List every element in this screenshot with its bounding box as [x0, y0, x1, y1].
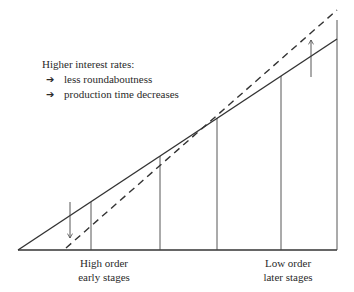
high-order-label: High order early stages: [68, 257, 140, 284]
annotation-heading: Higher interest rates:: [42, 57, 179, 72]
annotation-bullet: ➔less roundaboutness: [42, 72, 179, 88]
new-structure-dashed-line: [66, 10, 337, 248]
annotation-bullet: ➔production time decreases: [42, 87, 179, 103]
low-order-label: Low order later stages: [252, 257, 324, 284]
production-structure-diagram: [0, 0, 354, 292]
interest-rate-annotation: Higher interest rates: ➔less roundaboutn…: [42, 57, 179, 103]
arrow-right-icon: ➔: [42, 88, 64, 103]
arrow-right-icon: ➔: [42, 73, 64, 88]
